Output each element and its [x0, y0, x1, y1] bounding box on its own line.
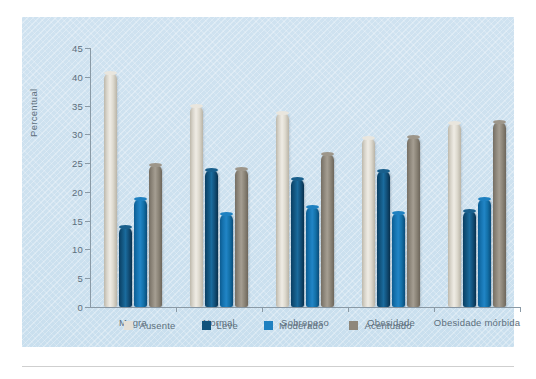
legend-swatch-icon	[349, 321, 358, 330]
bar-leve-3	[377, 171, 390, 307]
legend-item-ausente: Ausente	[124, 320, 175, 331]
y-tick-label: 40	[72, 71, 83, 82]
y-tick-label: 15	[72, 215, 83, 226]
y-tick-label: 45	[72, 43, 83, 54]
y-tick: 0	[90, 307, 91, 308]
x-tick-mark	[520, 307, 521, 312]
bar-ausente-4	[448, 123, 461, 307]
legend-label: Acentuado	[364, 320, 411, 331]
legend-item-leve: Leve	[202, 320, 238, 331]
y-axis-title: Percentual	[28, 89, 39, 137]
bar-moderado-4	[478, 199, 491, 307]
bar-cap	[306, 205, 319, 209]
y-axis-line	[90, 48, 91, 307]
legend-swatch-icon	[264, 321, 273, 330]
bar-cap	[119, 225, 132, 229]
bar-ausente-1	[190, 106, 203, 307]
bar-cap	[205, 168, 218, 172]
bar-cap	[448, 121, 461, 125]
y-tick: 15	[90, 221, 91, 222]
y-tick-mark	[85, 163, 90, 164]
bar-moderado-0	[134, 199, 147, 307]
y-tick: 25	[90, 163, 91, 164]
bar-leve-0	[119, 227, 132, 307]
bar-acentuado-3	[407, 137, 420, 307]
y-tick: 45	[90, 48, 91, 49]
bar-cap	[362, 136, 375, 140]
legend-item-moderado: Moderado	[264, 320, 323, 331]
y-tick-mark	[85, 192, 90, 193]
bar-cap	[377, 169, 390, 173]
bar-acentuado-4	[493, 122, 506, 307]
y-tick-mark	[85, 221, 90, 222]
y-tick-mark	[85, 249, 90, 250]
bar-cap	[190, 104, 203, 108]
bar-cap	[134, 197, 147, 201]
y-tick: 40	[90, 77, 91, 78]
y-tick-mark	[85, 134, 90, 135]
y-tick-label: 20	[72, 186, 83, 197]
y-tick-mark	[85, 77, 90, 78]
y-tick-mark	[85, 307, 90, 308]
y-tick-label: 0	[78, 302, 83, 313]
bar-cap	[463, 209, 476, 213]
x-tick-mark	[434, 307, 435, 312]
y-tick-mark	[85, 48, 90, 49]
y-tick-label: 30	[72, 129, 83, 140]
bar-acentuado-1	[235, 169, 248, 307]
bar-cap	[291, 177, 304, 181]
bar-cap	[392, 211, 405, 215]
y-tick: 10	[90, 249, 91, 250]
bar-moderado-2	[306, 207, 319, 307]
bar-ausente-3	[362, 138, 375, 307]
legend-label: Leve	[217, 320, 238, 331]
bar-ausente-2	[276, 113, 289, 307]
bar-acentuado-2	[321, 154, 334, 307]
bar-cap	[478, 197, 491, 201]
y-tick-mark	[85, 278, 90, 279]
y-tick-label: 25	[72, 158, 83, 169]
y-tick-label: 5	[78, 273, 83, 284]
bar-cap	[276, 111, 289, 115]
y-tick: 30	[90, 134, 91, 135]
bar-cap	[149, 163, 162, 167]
x-axis-line	[90, 307, 520, 308]
bar-leve-4	[463, 211, 476, 307]
legend-label: Moderado	[279, 320, 323, 331]
chart-figure: Percentual 051015202530354045 MagraNorma…	[0, 0, 536, 379]
y-tick-label: 10	[72, 244, 83, 255]
y-tick: 5	[90, 278, 91, 279]
bar-cap	[407, 135, 420, 139]
x-tick-mark	[262, 307, 263, 312]
y-tick-mark	[85, 106, 90, 107]
bar-leve-1	[205, 170, 218, 307]
y-tick: 20	[90, 192, 91, 193]
bar-cap	[321, 152, 334, 156]
chart-legend: AusenteLeveModeradoAcentuado	[22, 320, 514, 331]
x-tick-mark	[348, 307, 349, 312]
bar-leve-2	[291, 179, 304, 307]
legend-swatch-icon	[202, 321, 211, 330]
bar-acentuado-0	[149, 165, 162, 307]
bar-ausente-0	[104, 73, 117, 307]
legend-item-acentuado: Acentuado	[349, 320, 411, 331]
bar-cap	[235, 167, 248, 171]
chart-panel: Percentual 051015202530354045 MagraNorma…	[22, 17, 514, 347]
y-tick: 35	[90, 106, 91, 107]
bar-cap	[493, 120, 506, 124]
bar-cap	[104, 71, 117, 75]
legend-swatch-icon	[124, 321, 133, 330]
legend-label: Ausente	[139, 320, 175, 331]
x-tick-mark	[176, 307, 177, 312]
bottom-divider	[22, 366, 514, 367]
plot-area: 051015202530354045 MagraNormalSobrepesoO…	[90, 48, 520, 307]
bar-moderado-3	[392, 213, 405, 307]
bar-cap	[220, 212, 233, 216]
y-tick-label: 35	[72, 100, 83, 111]
bar-moderado-1	[220, 214, 233, 307]
